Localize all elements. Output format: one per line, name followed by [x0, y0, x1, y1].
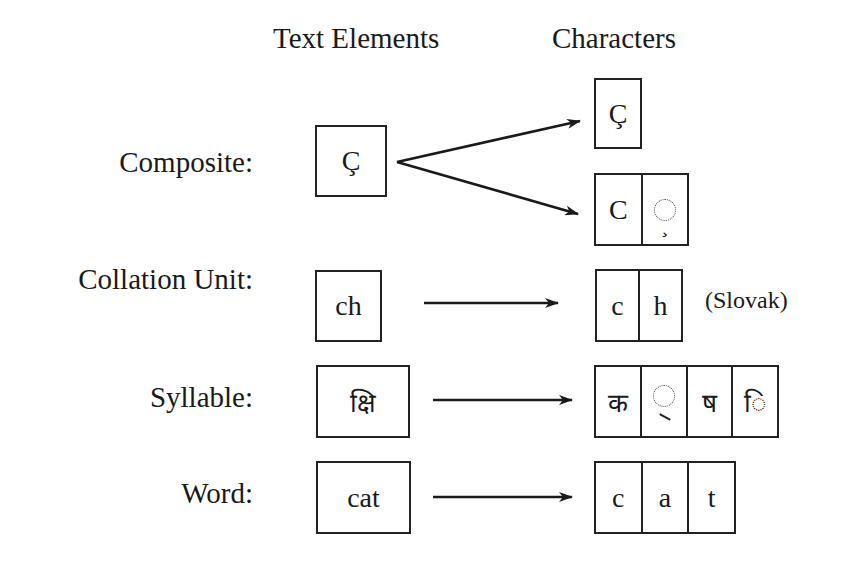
dotted-circle-cedilla-icon: ¸	[654, 199, 676, 221]
text-element-box-composite: Ç	[315, 125, 387, 197]
slovak-note: (Slovak)	[705, 287, 788, 314]
character-cell: c	[597, 271, 640, 340]
text-element-box-collation: ch	[315, 270, 382, 342]
character-cell: क	[596, 367, 642, 436]
character-cell: h	[640, 271, 681, 340]
text-element-composite: Ç	[342, 145, 361, 177]
character-box-decomposed: C ¸	[594, 173, 689, 246]
character-cell	[642, 367, 688, 436]
character-ka: क	[608, 384, 628, 420]
character-precomposed-c-cedilla: Ç	[609, 98, 628, 130]
character-t: t	[708, 482, 716, 514]
character-cell: ¸	[643, 175, 688, 244]
character-c: c	[612, 482, 624, 514]
row-label-syllable: Syllable:	[0, 381, 253, 414]
character-cell: C	[596, 175, 643, 244]
character-h: h	[654, 290, 668, 322]
character-c: c	[611, 290, 623, 322]
character-vowel-sign-i: ि	[744, 384, 766, 420]
character-box-collation: c h	[595, 269, 683, 342]
dotted-circle-virama-icon	[653, 385, 675, 407]
composite-arrow-lower	[397, 162, 578, 214]
character-ssa: ष	[702, 384, 717, 420]
text-element-box-syllable: क्षि	[316, 365, 410, 438]
text-element-syllable: क्षि	[350, 384, 376, 420]
character-cell: ि	[733, 367, 777, 436]
row-label-word: Word:	[0, 477, 253, 510]
text-element-collation: ch	[335, 290, 361, 322]
cedilla-mark: ¸	[661, 214, 668, 236]
character-cell: t	[689, 463, 734, 532]
character-a: a	[659, 482, 671, 514]
character-cell: ष	[688, 367, 734, 436]
character-box-syllable: क ष ि	[594, 365, 779, 438]
composite-arrow-upper	[397, 121, 580, 162]
character-base-c: C	[609, 194, 628, 226]
character-cell: a	[643, 463, 690, 532]
character-cell: c	[596, 463, 643, 532]
character-box-word: c a t	[594, 461, 736, 534]
virama-mark	[659, 413, 671, 420]
character-box-precomposed: Ç	[594, 78, 642, 149]
text-element-word: cat	[347, 482, 380, 514]
row-label-composite: Composite:	[0, 146, 253, 179]
character-cell: Ç	[596, 80, 640, 147]
text-element-box-word: cat	[316, 461, 411, 534]
row-label-collation-unit: Collation Unit:	[0, 263, 253, 296]
